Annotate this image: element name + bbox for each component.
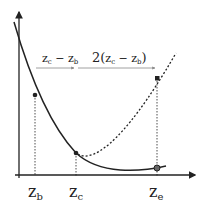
interval2-label: 2(zc − zb) xyxy=(92,50,147,66)
point-ze-curve xyxy=(154,165,160,171)
label-zb: zb xyxy=(28,182,43,202)
interval1-label: zc − zb xyxy=(42,52,79,66)
point-ze-parabola xyxy=(155,76,160,81)
label-ze: ze xyxy=(149,182,163,202)
point-zb xyxy=(33,93,38,98)
diagram-canvas: zc − zb 2(zc − zb) zb zc ze xyxy=(0,0,206,210)
label-zc: zc xyxy=(69,182,83,202)
point-zc xyxy=(74,151,79,156)
dotted-parabola xyxy=(78,53,176,156)
